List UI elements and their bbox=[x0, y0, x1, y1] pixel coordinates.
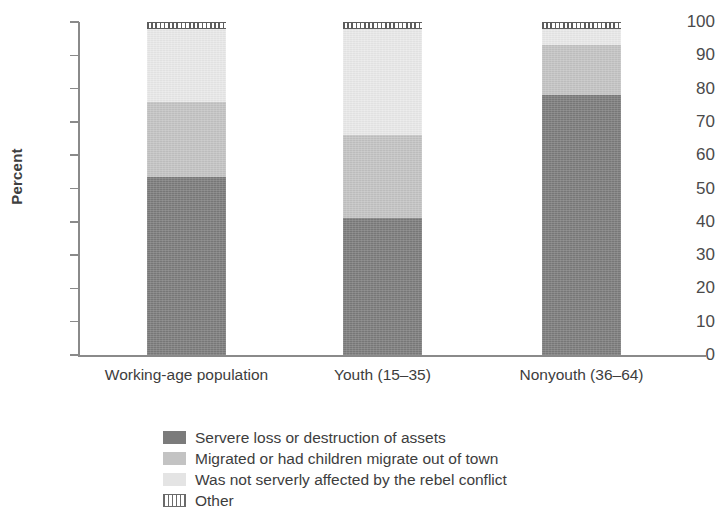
texture-overlay bbox=[343, 218, 422, 355]
bar-segment bbox=[343, 218, 422, 355]
bar-segment bbox=[147, 177, 226, 355]
legend-item-label: Servere loss or destruction of assets bbox=[195, 430, 446, 446]
bar-segment bbox=[343, 29, 422, 136]
bar-segment bbox=[542, 95, 621, 355]
plot-area bbox=[78, 22, 706, 355]
bar-2 bbox=[343, 22, 422, 355]
legend-item-label: Other bbox=[195, 493, 234, 509]
bar-segment bbox=[542, 22, 621, 29]
texture-overlay bbox=[343, 135, 422, 218]
x-axis-line bbox=[78, 355, 706, 357]
bar-segment bbox=[542, 45, 621, 95]
y-axis-title: Percent bbox=[8, 137, 25, 217]
legend-item[interactable]: Migrated or had children migrate out of … bbox=[163, 448, 507, 469]
bar-segment bbox=[147, 22, 226, 29]
bar-segment bbox=[147, 29, 226, 102]
texture-overlay bbox=[542, 45, 621, 95]
legend-item-label: Migrated or had children migrate out of … bbox=[195, 451, 498, 467]
bar-segment bbox=[343, 135, 422, 218]
stacked-bar-chart: Percent 0102030405060708090100 Working-a… bbox=[0, 0, 715, 520]
texture-overlay bbox=[147, 177, 226, 355]
texture-overlay bbox=[542, 95, 621, 355]
light-gray-swatch bbox=[163, 473, 186, 486]
hatched-swatch bbox=[163, 494, 186, 507]
legend-item[interactable]: Other bbox=[163, 490, 507, 511]
dark-gray-swatch bbox=[163, 431, 186, 444]
bar-3 bbox=[542, 22, 621, 355]
texture-overlay bbox=[542, 29, 621, 46]
bar-segment bbox=[147, 102, 226, 177]
chart-legend: Servere loss or destruction of assetsMig… bbox=[163, 427, 507, 511]
legend-item-label: Was not serverly affected by the rebel c… bbox=[195, 472, 507, 488]
texture-overlay bbox=[343, 29, 422, 136]
texture-overlay bbox=[147, 102, 226, 177]
bar-segment bbox=[542, 29, 621, 46]
category-label: Nonyouth (36–64) bbox=[442, 366, 715, 384]
texture-overlay bbox=[147, 29, 226, 102]
legend-item[interactable]: Servere loss or destruction of assets bbox=[163, 427, 507, 448]
medium-gray-swatch bbox=[163, 452, 186, 465]
bar-1 bbox=[147, 22, 226, 355]
bar-segment bbox=[343, 22, 422, 29]
legend-item[interactable]: Was not serverly affected by the rebel c… bbox=[163, 469, 507, 490]
